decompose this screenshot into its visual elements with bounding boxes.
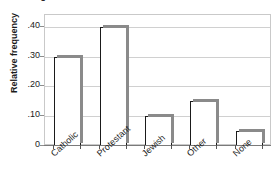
- x-tick-mark-other-right: [216, 145, 217, 149]
- bar-shadow-right: [171, 114, 174, 143]
- gridline-.40: [45, 27, 270, 28]
- x-tick-mark-jewish-right: [171, 145, 172, 149]
- clipped-chart-title: Religious affiliation: [24, 0, 107, 1]
- y-tick-label-.20: .20: [0, 79, 40, 89]
- x-tick-mark-protestant-right: [126, 145, 127, 149]
- bar-shadow-right: [80, 55, 83, 143]
- bar-shadow-right: [262, 129, 265, 143]
- y-tick-mark-.10: [40, 115, 44, 116]
- bar-shadow-right: [216, 99, 219, 143]
- y-tick-mark-.20: [40, 85, 44, 86]
- y-tick-mark-.40: [40, 26, 44, 27]
- bar-chart: Religious affiliation Relative frequency…: [0, 0, 280, 191]
- x-tick-mark-catholic-right: [80, 145, 81, 149]
- y-tick-mark-.30: [40, 56, 44, 57]
- y-tick-label-.10: .10: [0, 109, 40, 119]
- x-tick-mark-none-right: [262, 145, 263, 149]
- y-tick-label-0: 0: [0, 139, 40, 149]
- y-tick-label-.30: .30: [0, 50, 40, 60]
- y-tick-label-.40: .40: [0, 20, 40, 30]
- plot-area: [44, 14, 271, 145]
